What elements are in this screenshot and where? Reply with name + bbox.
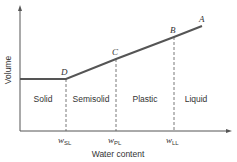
- y-axis-arrow-icon: [18, 5, 22, 11]
- region-plastic: Plastic: [132, 94, 158, 104]
- region-liquid: Liquid: [185, 94, 208, 104]
- point-label-a: A: [198, 14, 205, 24]
- point-label-b: B: [170, 25, 176, 35]
- region-solid: Solid: [34, 94, 53, 104]
- x-axis-arrow-icon: [226, 129, 232, 133]
- tick-w-ll: wLL: [166, 135, 179, 146]
- x-axis-label: Water content: [92, 149, 145, 159]
- point-label-c: C: [112, 47, 119, 57]
- tick-w-pl: wPL: [108, 135, 122, 146]
- tick-w-sl: wSL: [58, 135, 72, 146]
- atterberg-limits-diagram: D C B A Solid Semisolid Plastic Liquid w…: [0, 0, 237, 162]
- y-axis-label: Volume: [3, 56, 13, 85]
- point-label-d: D: [60, 67, 68, 77]
- region-semisolid: Semisolid: [73, 94, 110, 104]
